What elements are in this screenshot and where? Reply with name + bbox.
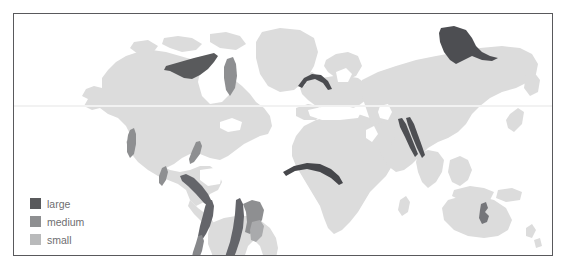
legend-swatch-large: [30, 198, 41, 209]
world-map: [14, 14, 552, 255]
legend-item-small: small: [30, 232, 84, 247]
legend-label-medium: medium: [47, 216, 84, 228]
legend-swatch-small: [30, 234, 41, 245]
legend-label-large: large: [47, 198, 70, 210]
legend-item-medium: medium: [30, 214, 84, 229]
map-frame: large medium small: [13, 13, 553, 256]
figure-container: large medium small: [0, 0, 567, 270]
legend: large medium small: [30, 196, 84, 247]
legend-swatch-medium: [30, 216, 41, 227]
legend-item-large: large: [30, 196, 84, 211]
legend-label-small: small: [47, 234, 72, 246]
